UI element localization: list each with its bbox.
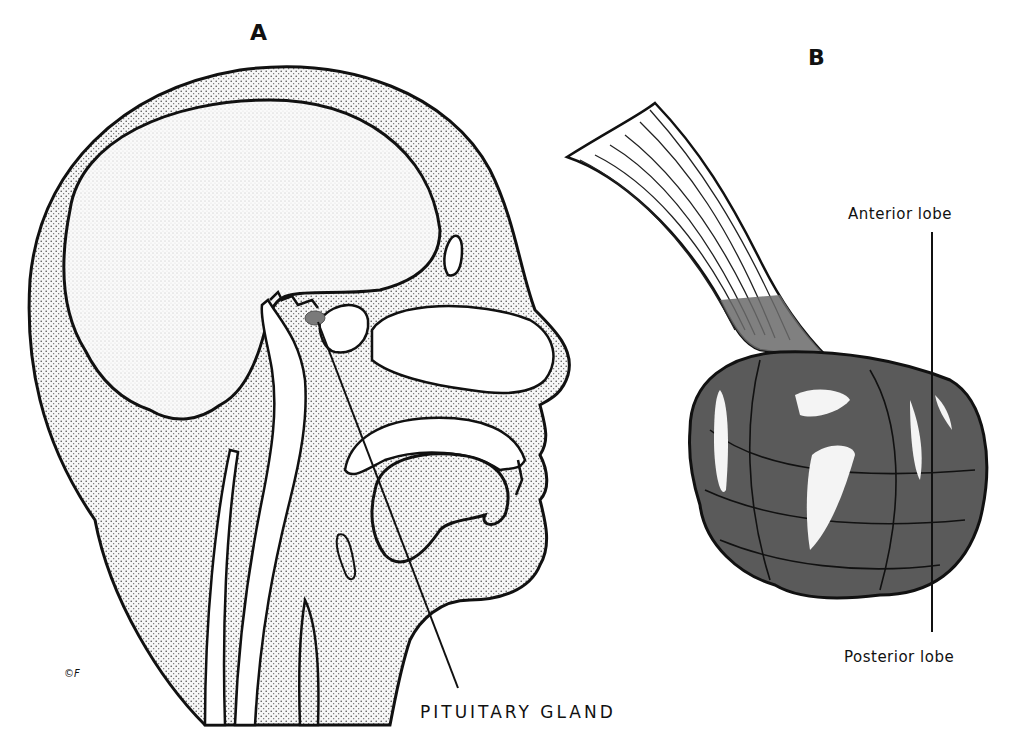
panel-label-b: B (808, 45, 825, 70)
anatomy-illustration (0, 0, 1024, 735)
artist-signature: ©F (64, 668, 80, 679)
head-section (29, 67, 569, 725)
pituitary-gland-label: PITUITARY GLAND (420, 702, 616, 722)
pituitary-enlarged (567, 103, 987, 632)
anterior-lobe-label: Anterior lobe (848, 205, 952, 223)
posterior-lobe-label: Posterior lobe (844, 648, 954, 666)
stalk-shaded-base (720, 295, 830, 360)
pituitary-gland-spot (305, 311, 325, 325)
panel-label-a: A (250, 20, 267, 45)
